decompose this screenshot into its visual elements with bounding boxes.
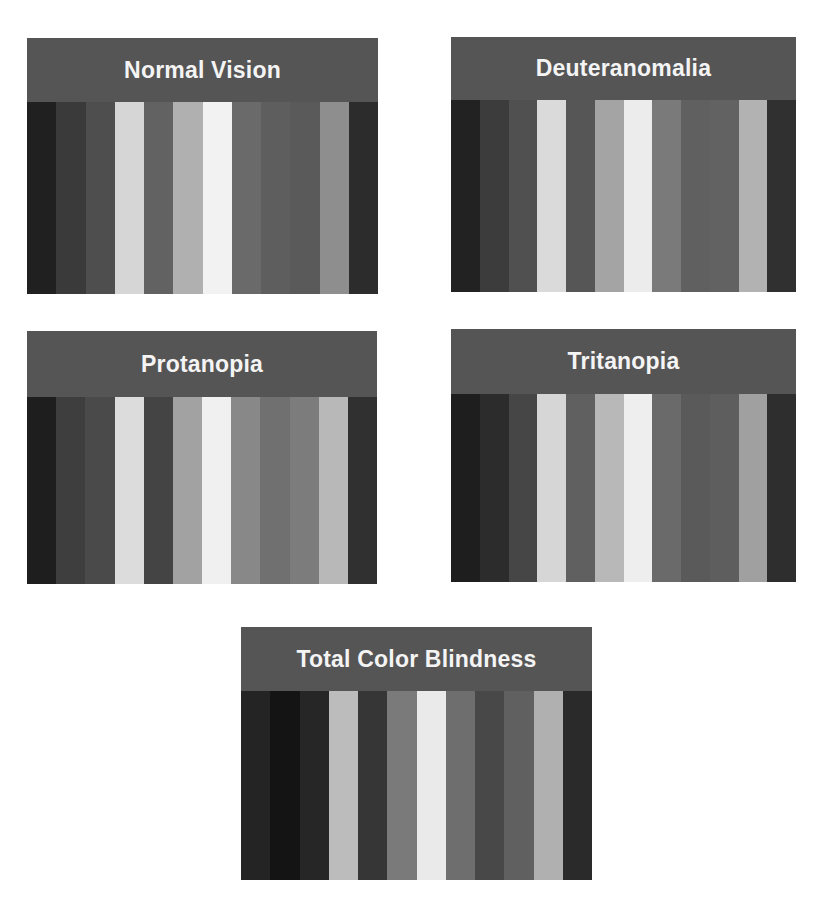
color-stripe <box>563 691 592 880</box>
color-stripe <box>681 394 710 582</box>
color-stripe <box>203 102 232 294</box>
color-stripe <box>566 100 595 292</box>
color-stripes <box>451 100 796 292</box>
panel-title: Normal Vision <box>27 38 378 102</box>
color-stripe <box>261 102 290 294</box>
color-stripes <box>27 102 378 294</box>
color-stripe <box>739 100 768 292</box>
color-stripe <box>509 100 538 292</box>
color-stripe <box>290 397 319 584</box>
color-stripe <box>173 102 202 294</box>
color-stripe <box>417 691 446 880</box>
color-stripe <box>537 100 566 292</box>
color-stripe <box>320 102 349 294</box>
color-stripe <box>451 100 480 292</box>
panel-title: Total Color Blindness <box>241 627 592 691</box>
color-stripe <box>115 102 144 294</box>
color-stripe <box>595 394 624 582</box>
color-stripe <box>534 691 563 880</box>
color-stripe <box>767 394 796 582</box>
color-stripes <box>451 394 796 582</box>
panel-title: Deuteranomalia <box>451 37 796 100</box>
color-stripe <box>358 691 387 880</box>
panel-tritanopia: Tritanopia <box>451 329 796 582</box>
panel-title: Protanopia <box>27 331 377 397</box>
color-stripe <box>231 397 260 584</box>
color-stripe <box>566 394 595 582</box>
color-stripe <box>319 397 348 584</box>
color-stripe <box>652 394 681 582</box>
color-stripe <box>480 394 509 582</box>
color-stripe <box>27 397 56 584</box>
color-stripe <box>480 100 509 292</box>
color-stripe <box>300 691 329 880</box>
color-stripe <box>451 394 480 582</box>
color-stripe <box>56 397 85 584</box>
color-stripe <box>115 397 144 584</box>
color-stripe <box>504 691 533 880</box>
color-stripe <box>710 394 739 582</box>
color-stripe <box>144 397 173 584</box>
panel-protanopia: Protanopia <box>27 331 377 584</box>
color-stripe <box>241 691 270 880</box>
color-stripe <box>56 102 85 294</box>
color-stripe <box>739 394 768 582</box>
color-stripe <box>537 394 566 582</box>
color-stripe <box>270 691 299 880</box>
color-stripe <box>85 397 114 584</box>
color-stripe <box>27 102 56 294</box>
color-stripe <box>624 394 653 582</box>
color-stripe <box>624 100 653 292</box>
color-stripe <box>509 394 538 582</box>
color-stripe <box>349 102 378 294</box>
panel-title: Tritanopia <box>451 329 796 394</box>
color-stripes <box>241 691 592 880</box>
color-stripe <box>329 691 358 880</box>
color-stripe <box>446 691 475 880</box>
panel-deuteranomalia: Deuteranomalia <box>451 37 796 292</box>
color-stripe <box>387 691 416 880</box>
color-stripe <box>202 397 231 584</box>
color-stripe <box>348 397 377 584</box>
color-stripe <box>652 100 681 292</box>
panel-normal-vision: Normal Vision <box>27 38 378 294</box>
color-stripe <box>767 100 796 292</box>
color-stripe <box>595 100 624 292</box>
panel-total-color-blindness: Total Color Blindness <box>241 627 592 880</box>
color-stripes <box>27 397 377 584</box>
color-stripe <box>710 100 739 292</box>
color-stripe <box>290 102 319 294</box>
color-stripe <box>86 102 115 294</box>
color-stripe <box>475 691 504 880</box>
color-stripe <box>260 397 289 584</box>
color-stripe <box>681 100 710 292</box>
color-stripe <box>173 397 202 584</box>
color-stripe <box>232 102 261 294</box>
color-stripe <box>144 102 173 294</box>
